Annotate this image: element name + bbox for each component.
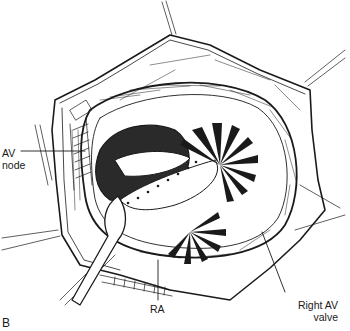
panel-letter: B [2,316,10,330]
right-av-valve-label-line2: valve [290,311,338,323]
retractor [72,196,126,305]
av-node-label-line1: AV [2,147,25,159]
av-node-label-line2: node [2,159,25,171]
right-av-valve-label-line1: Right AV [290,299,338,311]
right-av-valve-label: Right AV valve [290,299,338,323]
ra-label: RA [150,303,165,315]
right-av-valve-leader [262,232,285,292]
av-node-label: AV node [2,147,25,171]
surgical-illustration [0,0,350,331]
